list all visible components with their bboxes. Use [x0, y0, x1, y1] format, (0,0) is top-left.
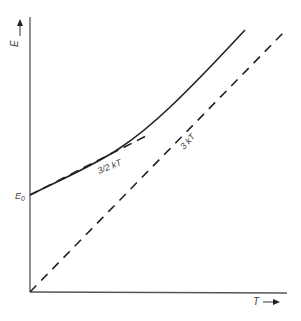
arrow-right-icon	[273, 299, 280, 305]
total-energy-curve	[30, 30, 245, 195]
x-axis	[30, 292, 287, 293]
arrow-up-icon	[17, 19, 23, 26]
y-axis-label: E	[9, 40, 20, 47]
energy-temperature-diagram: E T E0 3 kT 3/2 kT	[0, 0, 301, 321]
e0-label: E0	[15, 191, 25, 202]
three-kT-label: 3 kT	[178, 131, 198, 152]
x-axis-label-group: T	[253, 296, 280, 307]
three-kT-line	[30, 33, 283, 292]
y-axis-label-group: E	[9, 19, 23, 47]
x-axis-label: T	[253, 296, 260, 307]
